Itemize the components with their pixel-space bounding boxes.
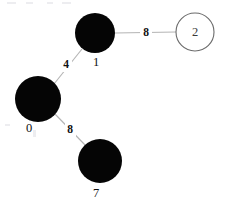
graph-svg-root: 1 2 0 7 8 4 8 <box>0 0 228 212</box>
node-layer <box>15 13 214 183</box>
node-0-label: 0 <box>26 121 32 135</box>
edge-weight-node0-node1: 4 <box>63 58 69 70</box>
node-1-label: 1 <box>93 55 99 69</box>
scan-artifact-top-b <box>26 2 33 4</box>
scan-artifact-left <box>5 124 10 126</box>
node-0-shape[interactable] <box>15 76 61 122</box>
scan-artifact-top-d <box>62 2 71 4</box>
scan-artifact-top-c <box>47 2 53 4</box>
graph-diagram-canvas: 1 2 0 7 8 4 8 <box>0 0 228 212</box>
node-2-label: 2 <box>192 25 198 39</box>
edge-weight-node1-node2: 8 <box>143 26 149 38</box>
node-1-shape[interactable] <box>75 13 115 53</box>
node-7-label: 7 <box>93 186 99 200</box>
scan-artifact-mid <box>33 130 36 137</box>
scan-artifact-top-a <box>7 2 16 4</box>
edge-weight-node0-node7: 8 <box>67 123 73 135</box>
node-7-shape[interactable] <box>78 139 122 183</box>
